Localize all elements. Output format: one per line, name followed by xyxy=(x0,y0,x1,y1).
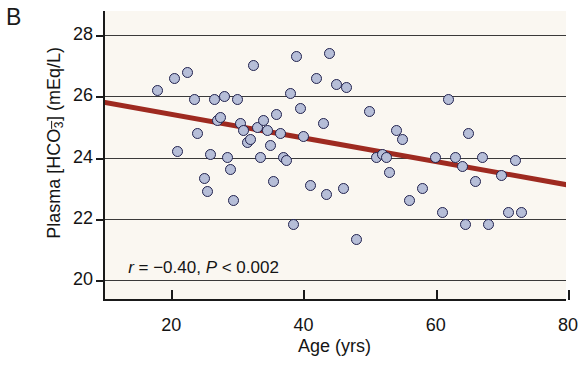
y-axis-tick xyxy=(96,35,105,37)
y-axis-tick-label: 28 xyxy=(33,24,93,45)
data-point xyxy=(232,94,243,105)
y-axis-tick xyxy=(96,280,105,282)
data-point xyxy=(222,152,233,163)
data-point xyxy=(209,94,220,105)
data-point xyxy=(245,134,256,145)
data-point xyxy=(510,155,521,166)
data-point xyxy=(189,94,200,105)
x-axis-tick xyxy=(568,290,570,300)
data-point xyxy=(437,207,448,218)
data-point xyxy=(311,73,322,84)
x-axis-tick-label: 40 xyxy=(273,315,333,336)
y-axis-tick-label: 20 xyxy=(33,269,93,290)
data-point xyxy=(255,152,266,163)
y-axis-tick xyxy=(96,219,105,221)
data-point xyxy=(457,161,468,172)
data-point xyxy=(275,128,286,139)
plot-inner: r = −0.40, P < 0.002 xyxy=(105,11,566,299)
data-point xyxy=(219,91,230,102)
x-axis-tick xyxy=(436,290,438,300)
data-point xyxy=(285,88,296,99)
data-point xyxy=(404,195,415,206)
data-point xyxy=(417,183,428,194)
data-point xyxy=(503,207,514,218)
y-axis-tick xyxy=(96,96,105,98)
data-point xyxy=(192,128,203,139)
x-axis-tick-label: 80 xyxy=(538,315,582,336)
y-axis-label-suffix: ] (mEq/L) xyxy=(44,47,64,121)
data-point xyxy=(265,140,276,151)
statistics-annotation: r = −0.40, P < 0.002 xyxy=(128,258,279,278)
data-point xyxy=(381,152,392,163)
data-point xyxy=(477,152,488,163)
y-axis-tick-label: 24 xyxy=(33,147,93,168)
data-point xyxy=(397,134,408,145)
x-axis-tick-label: 60 xyxy=(406,315,466,336)
data-point xyxy=(341,82,352,93)
data-point xyxy=(182,67,193,78)
x-axis-tick-label: 20 xyxy=(141,315,201,336)
data-point xyxy=(463,128,474,139)
x-axis-tick xyxy=(303,290,305,300)
data-point xyxy=(321,189,332,200)
data-point xyxy=(169,73,180,84)
data-point xyxy=(295,103,306,114)
data-point xyxy=(338,183,349,194)
data-point xyxy=(305,180,316,191)
annotation-r-symbol: r xyxy=(128,258,134,277)
panel-letter: B xyxy=(6,4,21,31)
x-axis-label: Age (yrs) xyxy=(103,336,566,357)
y-axis-label-subscript: 3 xyxy=(51,121,66,129)
x-axis-tick xyxy=(171,290,173,300)
annotation-p-symbol: P xyxy=(206,258,217,277)
y-axis-tick-label: 22 xyxy=(33,208,93,229)
y-axis-tick-label: 26 xyxy=(33,85,93,106)
data-point xyxy=(202,186,213,197)
plot-area: r = −0.40, P < 0.002 202224262820406080 xyxy=(103,11,566,301)
y-axis-tick xyxy=(96,158,105,160)
data-point xyxy=(298,131,309,142)
data-point xyxy=(262,125,273,136)
